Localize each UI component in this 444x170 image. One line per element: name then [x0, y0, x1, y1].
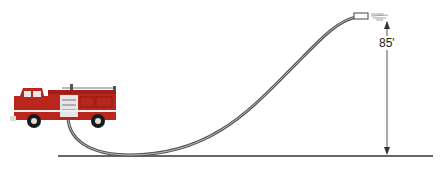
- fire-truck: [10, 84, 116, 128]
- height-label: 85': [379, 36, 395, 50]
- fire-hose-diagram: [0, 0, 444, 170]
- hose: [68, 17, 356, 155]
- water-spray-icon: [371, 14, 388, 20]
- nozzle: [354, 13, 368, 19]
